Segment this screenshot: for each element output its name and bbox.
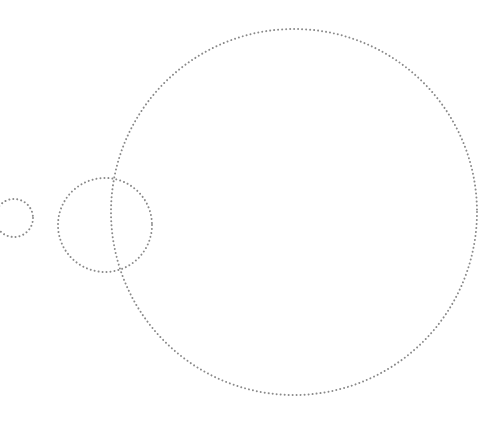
dotted-circles-diagram [0, 0, 490, 435]
large-circle [111, 29, 477, 395]
small-circle [0, 199, 33, 237]
medium-circle [58, 178, 152, 272]
